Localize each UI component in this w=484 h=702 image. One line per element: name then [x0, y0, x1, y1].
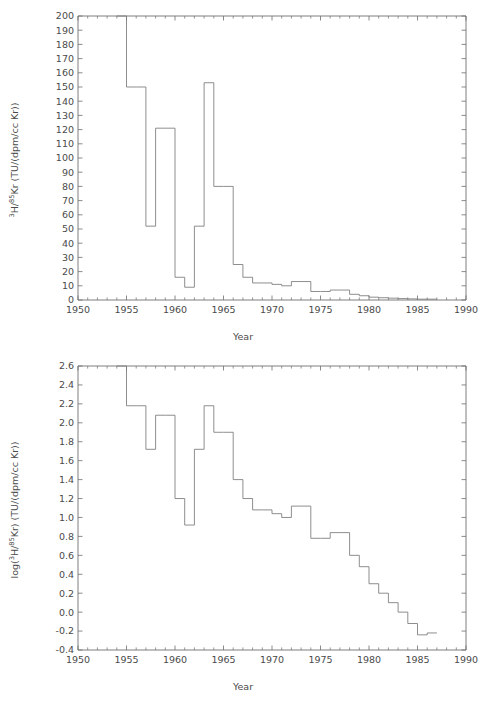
y-tick-label: 30 [62, 252, 74, 263]
y-tick-label: 2.0 [59, 417, 74, 428]
y-tick-label: 130 [56, 110, 74, 121]
x-tick-label: 1965 [211, 654, 235, 665]
x-tick-label: 1960 [163, 304, 187, 315]
x-tick-label: 1985 [405, 654, 429, 665]
y-tick-label: 110 [56, 138, 74, 149]
x-tick-label: 1950 [66, 654, 90, 665]
y-tick-label: 1.2 [59, 493, 74, 504]
bottom-y-tick-labels: -0.4-0.20.00.20.40.60.81.01.21.41.61.82.… [55, 360, 74, 655]
x-tick-label: 1990 [454, 654, 478, 665]
y-tick-label: 70 [62, 195, 74, 206]
y-tick-label: 160 [56, 67, 74, 78]
bottom-tick-marks [78, 366, 466, 650]
y-tick-label: 120 [56, 124, 74, 135]
y-tick-label: 0.2 [59, 588, 74, 599]
y-tick-label: 1.8 [59, 436, 74, 447]
y-tick-label: 2.2 [59, 398, 74, 409]
bottom-x-tick-labels: 195019551960196519701975198019851990 [66, 654, 478, 665]
y-tick-label: -0.2 [55, 625, 74, 636]
bottom-step-chart: -0.4-0.20.00.20.40.60.81.01.21.41.61.82.… [0, 350, 484, 702]
chart-panel-top: 0102030405060708090100110120130140150160… [0, 0, 484, 352]
x-tick-label: 1985 [405, 304, 429, 315]
y-tick-label: 2.6 [59, 360, 74, 371]
y-tick-label: 60 [62, 209, 74, 220]
bottom-axes [78, 366, 466, 650]
y-tick-label: 0.0 [59, 607, 74, 618]
y-tick-label: 180 [56, 39, 74, 50]
y-tick-label: 90 [62, 167, 74, 178]
y-tick-label: 40 [62, 238, 74, 249]
bottom-y-axis-title: log(3H/85Kr) (TU/(dpm/cc Kr)) [8, 442, 20, 579]
top-x-axis-title: Year [232, 331, 253, 342]
x-tick-label: 1970 [260, 304, 284, 315]
x-tick-label: 1975 [308, 304, 332, 315]
y-tick-label: 190 [56, 25, 74, 36]
y-tick-label: 10 [62, 280, 74, 291]
y-tick-label: 0.8 [59, 531, 74, 542]
top-tick-marks [78, 16, 466, 300]
x-tick-label: 1980 [357, 304, 381, 315]
top-data-series [117, 16, 437, 299]
top-y-axis-title: 3H/85Kr (TU/(dpm/cc Kr)) [8, 102, 20, 217]
bottom-data-series [117, 366, 437, 635]
y-tick-label: 170 [56, 53, 74, 64]
y-tick-label: 2.4 [59, 379, 74, 390]
x-tick-label: 1950 [66, 304, 90, 315]
y-tick-label: 50 [62, 223, 74, 234]
bottom-x-axis-title: Year [232, 681, 253, 692]
x-tick-label: 1980 [357, 654, 381, 665]
y-tick-label: 1.6 [59, 455, 74, 466]
top-step-chart: 0102030405060708090100110120130140150160… [0, 0, 484, 352]
y-tick-label: 80 [62, 181, 74, 192]
x-tick-label: 1955 [114, 654, 138, 665]
y-tick-label: 0.4 [59, 569, 74, 580]
top-y-tick-labels: 0102030405060708090100110120130140150160… [56, 10, 74, 305]
chart-panel-bottom: -0.4-0.20.00.20.40.60.81.01.21.41.61.82.… [0, 350, 484, 702]
svg-text:3H/85Kr (TU/(dpm/cc Kr)): 3H/85Kr (TU/(dpm/cc Kr)) [8, 102, 20, 217]
y-tick-label: 100 [56, 152, 74, 163]
x-tick-label: 1955 [114, 304, 138, 315]
y-tick-label: 20 [62, 266, 74, 277]
x-tick-label: 1970 [260, 654, 284, 665]
y-tick-label: 1.0 [59, 512, 74, 523]
top-x-tick-labels: 195019551960196519701975198019851990 [66, 304, 478, 315]
y-tick-label: 1.4 [59, 474, 74, 485]
y-tick-label: 150 [56, 81, 74, 92]
top-axes [78, 16, 466, 300]
x-tick-label: 1975 [308, 654, 332, 665]
y-tick-label: 140 [56, 96, 74, 107]
y-tick-label: 0.6 [59, 550, 74, 561]
x-tick-label: 1960 [163, 654, 187, 665]
x-tick-label: 1965 [211, 304, 235, 315]
y-tick-label: 200 [56, 10, 74, 21]
x-tick-label: 1990 [454, 304, 478, 315]
svg-text:log(3H/85Kr) (TU/(dpm/cc Kr)): log(3H/85Kr) (TU/(dpm/cc Kr)) [8, 442, 20, 579]
figure-container: 0102030405060708090100110120130140150160… [0, 0, 484, 702]
